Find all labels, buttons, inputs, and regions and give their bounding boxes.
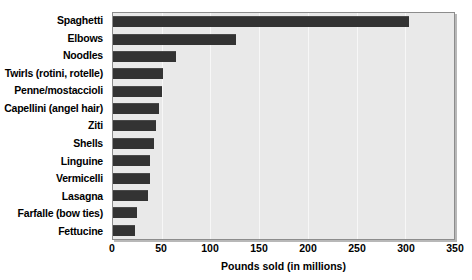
bar: [113, 103, 159, 114]
x-axis-tick-labels: 050100150200250300350: [112, 242, 455, 256]
x-tick-label: 100: [201, 242, 219, 254]
x-tick-label: 50: [155, 242, 167, 254]
bar: [113, 16, 409, 27]
category-label: Ziti: [0, 120, 108, 131]
bar-row: [113, 68, 454, 79]
plot-area: [112, 12, 455, 240]
bar-row: [113, 207, 454, 218]
bar-row: [113, 16, 454, 27]
category-label: Capellini (angel hair): [0, 103, 108, 114]
bar-row: [113, 173, 454, 184]
bar-row: [113, 190, 454, 201]
category-label: Elbows: [0, 33, 108, 44]
bar-row: [113, 51, 454, 62]
bar: [113, 68, 163, 79]
category-label: Vermicelli: [0, 173, 108, 184]
category-label: Twirls (rotini, rotelle): [0, 68, 108, 79]
bar: [113, 207, 137, 218]
x-tick-label: 250: [348, 242, 366, 254]
bar: [113, 190, 148, 201]
bar-series: [113, 13, 454, 239]
category-label: Spaghetti: [0, 15, 108, 26]
bar: [113, 120, 156, 131]
x-tick-label: 300: [397, 242, 415, 254]
category-label: Farfalle (bow ties): [0, 208, 108, 219]
bar-row: [113, 225, 454, 236]
bar: [113, 155, 150, 166]
bar: [113, 51, 176, 62]
x-tick-label: 150: [250, 242, 268, 254]
x-tick-label: 0: [109, 242, 115, 254]
bar: [113, 173, 150, 184]
bar-row: [113, 120, 454, 131]
x-tick-label: 200: [299, 242, 317, 254]
category-label: Linguine: [0, 156, 108, 167]
bar-row: [113, 138, 454, 149]
category-label: Lasagna: [0, 191, 108, 202]
category-label: Fettucine: [0, 226, 108, 237]
category-label: Penne/mostaccioli: [0, 85, 108, 96]
category-label: Shells: [0, 138, 108, 149]
bar: [113, 86, 162, 97]
category-axis-labels: SpaghettiElbowsNoodlesTwirls (rotini, ro…: [0, 12, 108, 240]
bar-row: [113, 155, 454, 166]
bar-row: [113, 86, 454, 97]
bar-row: [113, 34, 454, 45]
bar: [113, 225, 135, 236]
x-tick-label: 350: [446, 242, 464, 254]
category-label: Noodles: [0, 50, 108, 61]
bar-row: [113, 103, 454, 114]
bar: [113, 138, 154, 149]
bar: [113, 34, 236, 45]
x-axis-title: Pounds sold (in millions): [112, 260, 455, 272]
bar-chart: SpaghettiElbowsNoodlesTwirls (rotini, ro…: [0, 0, 472, 280]
